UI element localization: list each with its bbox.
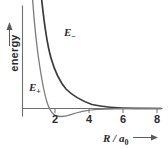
x-tick-label-4: 4 bbox=[82, 113, 96, 125]
energy-curve-figure: 2 4 6 8 E− E+ energy R / a0 bbox=[0, 0, 168, 149]
curve-label-e-minus-sub: − bbox=[71, 32, 76, 41]
x-axis-title-sub: 0 bbox=[124, 138, 128, 147]
x-tick-label-8: 8 bbox=[150, 113, 164, 125]
x-axis-title-text: R / a0 bbox=[103, 132, 128, 144]
curve-label-e-minus: E− bbox=[64, 26, 76, 41]
x-tick-label-6: 6 bbox=[116, 113, 130, 125]
plot-canvas bbox=[0, 0, 168, 149]
curve-e-minus bbox=[42, 0, 162, 109]
x-axis-title-main: R / a bbox=[103, 132, 124, 144]
y-axis-title: energy bbox=[4, 18, 22, 88]
curve-label-e-plus: E+ bbox=[29, 81, 41, 96]
curve-label-e-plus-sub: + bbox=[36, 87, 41, 96]
x-tick-label-2: 2 bbox=[48, 113, 62, 125]
x-axis-arrow-icon bbox=[133, 133, 159, 142]
y-axis-title-text: energy bbox=[8, 34, 20, 71]
x-axis-title: R / a0 bbox=[103, 128, 159, 147]
